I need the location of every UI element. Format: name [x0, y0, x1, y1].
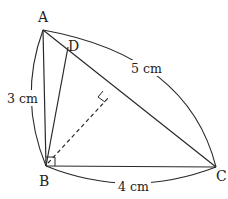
segment-bd — [46, 47, 68, 166]
triangle-diagram: A B C D 3 cm 5 cm 4 cm — [0, 0, 228, 199]
vertex-label-a: A — [37, 9, 49, 25]
side-ab — [43, 30, 46, 166]
side-bc — [46, 166, 216, 167]
right-angle-marker-foot — [98, 91, 105, 102]
measure-bc: 4 cm — [118, 179, 149, 194]
measure-ac: 5 cm — [131, 61, 162, 76]
measure-ab: 3 cm — [7, 91, 38, 106]
vertex-label-b: B — [39, 173, 49, 189]
vertex-label-c: C — [216, 168, 227, 184]
vertex-label-d: D — [68, 38, 79, 54]
